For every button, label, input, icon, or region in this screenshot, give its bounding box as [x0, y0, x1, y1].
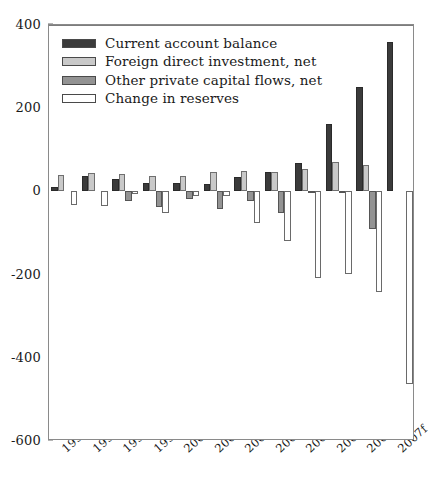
bar	[363, 165, 369, 191]
dark-gray-swatch	[62, 39, 96, 48]
legend-item-label: Other private capital flows, net	[105, 74, 322, 88]
bar	[210, 172, 216, 192]
bar	[71, 191, 77, 204]
y-axis-tick-label: -400	[0, 350, 48, 363]
y-axis-tick-label: 200	[0, 101, 48, 114]
bar	[387, 42, 393, 192]
y-axis-tick-label: -600	[0, 434, 48, 447]
bar	[162, 191, 168, 212]
bar	[119, 174, 125, 191]
bar-group	[324, 25, 355, 439]
y-axis-tick-label: 0	[0, 184, 48, 197]
bar	[315, 191, 321, 278]
bar	[345, 191, 351, 274]
y-axis-tick-text: -200	[11, 267, 48, 280]
chart-legend: Current account balanceForeign direct in…	[62, 34, 322, 108]
y-axis-tick-text: 200	[16, 101, 48, 114]
bar-group	[385, 25, 416, 439]
bar	[180, 176, 186, 192]
bar	[193, 191, 199, 195]
legend-item-label: Current account balance	[105, 37, 277, 51]
bar	[241, 171, 247, 191]
bar-group	[354, 25, 385, 439]
bar	[332, 162, 338, 192]
y-axis-tick-text: 400	[16, 18, 48, 31]
y-axis-tick-text: 0	[33, 184, 48, 197]
bar	[284, 191, 290, 241]
bar	[101, 191, 107, 206]
legend-item-label: Foreign direct investment, net	[105, 55, 316, 69]
bar	[376, 191, 382, 292]
legend-item-label: Change in reserves	[105, 92, 239, 106]
legend-item: Other private capital flows, net	[62, 71, 322, 90]
legend-item: Foreign direct investment, net	[62, 53, 322, 72]
bar	[132, 191, 138, 193]
bar	[58, 175, 64, 191]
bar	[302, 169, 308, 191]
bar	[88, 173, 94, 192]
y-axis-tick-text: -400	[11, 350, 48, 363]
bar	[254, 191, 260, 223]
medium-gray-swatch	[62, 76, 96, 85]
y-axis-tick-label: 400	[0, 18, 48, 31]
bar-chart: 4002000-200-400-600 19961997199819992000…	[0, 0, 432, 483]
legend-item: Change in reserves	[62, 90, 322, 109]
y-axis-tick-text: -600	[11, 434, 48, 447]
bar	[406, 191, 412, 383]
legend-item: Current account balance	[62, 34, 322, 53]
y-axis-tick-label: -200	[0, 267, 48, 280]
bar	[223, 191, 229, 196]
bar	[149, 176, 155, 191]
light-gray-swatch	[62, 57, 96, 66]
white-swatch	[62, 94, 96, 103]
bar	[271, 172, 277, 192]
